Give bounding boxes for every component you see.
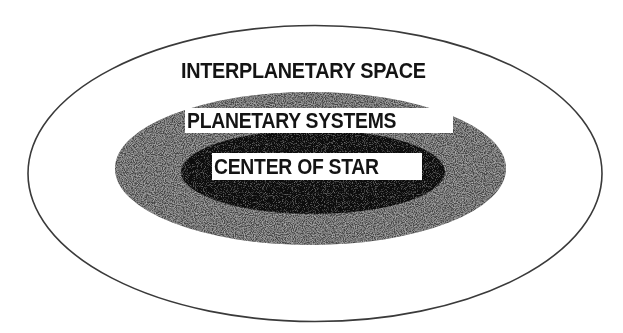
planetary-systems-label-box: PLANETARY SYSTEMS [185,108,453,133]
nested-region-diagram: INTERPLANETARY SPACE PLANETARY SYSTEMS C… [0,0,623,333]
interplanetary-space-label: INTERPLANETARY SPACE [181,60,426,82]
center-of-star-label-box: CENTER OF STAR [212,153,422,180]
planetary-systems-label: PLANETARY SYSTEMS [187,110,396,132]
center-of-star-label: CENTER OF STAR [214,156,379,178]
